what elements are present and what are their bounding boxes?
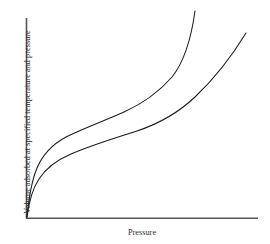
plot-area	[0, 0, 270, 244]
adsorption-isotherm-figure: Volume adsorbed at specified temperature…	[0, 0, 270, 244]
x-axis-label: Pressure	[26, 228, 258, 237]
plot-background	[0, 0, 270, 244]
